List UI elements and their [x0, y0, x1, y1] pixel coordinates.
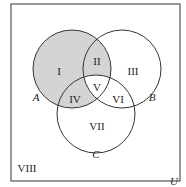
region-label-ii: II	[93, 55, 101, 67]
region-label-iv: IV	[69, 93, 81, 105]
set-label-b: B	[149, 91, 156, 103]
universe-label: U	[170, 175, 179, 187]
region-label-iii: III	[128, 65, 139, 77]
region-label-v: V	[93, 81, 101, 93]
set-label-c: C	[92, 148, 100, 160]
region-label-viii: VIII	[18, 162, 37, 174]
venn-diagram: A B C U I II III IV V VI VII VIII	[0, 0, 186, 187]
region-label-vi: VI	[112, 93, 124, 105]
set-label-a: A	[32, 91, 40, 103]
region-label-i: I	[57, 65, 61, 77]
region-label-vii: VII	[89, 120, 105, 132]
